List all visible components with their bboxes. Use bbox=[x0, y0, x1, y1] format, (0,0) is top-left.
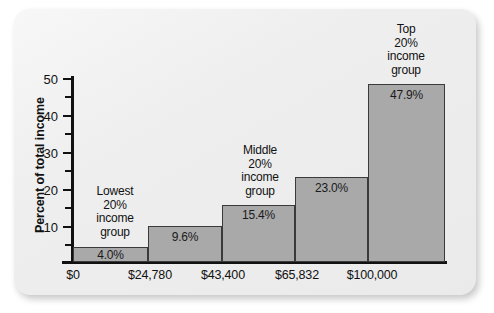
bar-value-lowest-20: 4.0% bbox=[73, 248, 148, 262]
annotation-top-line-2: 20% bbox=[374, 37, 438, 51]
x-tick-label-100000: $100,000 bbox=[339, 268, 405, 282]
annotation-middle-line-3: income bbox=[228, 171, 292, 185]
annotation-middle-line-1: Middle bbox=[228, 144, 292, 158]
bar-value-fourth-20: 23.0% bbox=[295, 181, 368, 195]
bar-value-second-20: 9.6% bbox=[148, 230, 222, 244]
y-tick-label-20: 20 bbox=[28, 183, 58, 198]
x-tick-label-24780: $24,780 bbox=[120, 268, 180, 282]
annotation-middle-line-4: group bbox=[228, 185, 292, 199]
chart-page: Percent of total income 50 40 30 20 10 4… bbox=[0, 0, 494, 313]
y-tick-major-10 bbox=[63, 226, 71, 228]
y-tick-label-50: 50 bbox=[28, 72, 58, 87]
bar-value-middle-20: 15.4% bbox=[222, 208, 295, 222]
annotation-lowest-line-4: group bbox=[83, 226, 147, 240]
annotation-lowest-line-2: 20% bbox=[83, 199, 147, 213]
y-tick-major-20 bbox=[63, 189, 71, 191]
annotation-lowest-line-1: Lowest bbox=[83, 185, 147, 199]
x-tick-label-43400: $43,400 bbox=[193, 268, 253, 282]
y-axis-line bbox=[71, 76, 74, 263]
y-tick-major-50 bbox=[63, 78, 71, 80]
annotation-top-line-4: group bbox=[374, 64, 438, 78]
bar-top-20[interactable] bbox=[368, 84, 445, 262]
y-tick-label-40: 40 bbox=[28, 109, 58, 124]
y-tick-label-10: 10 bbox=[28, 220, 58, 235]
bar-chart: Percent of total income 50 40 30 20 10 4… bbox=[0, 0, 494, 313]
annotation-middle-line-2: 20% bbox=[228, 158, 292, 172]
annotation-top-line-1: Top bbox=[374, 23, 438, 37]
y-tick-major-30 bbox=[63, 152, 71, 154]
x-tick-label-0: $0 bbox=[48, 268, 98, 282]
annotation-middle-20-income-group: Middle 20% income group bbox=[228, 144, 292, 198]
annotation-top-line-3: income bbox=[374, 50, 438, 64]
annotation-top-20-income-group: Top 20% income group bbox=[374, 23, 438, 77]
y-tick-major-40 bbox=[63, 115, 71, 117]
bar-value-top-20: 47.9% bbox=[368, 88, 445, 102]
y-tick-label-30: 30 bbox=[28, 146, 58, 161]
annotation-lowest-20-income-group: Lowest 20% income group bbox=[83, 185, 147, 239]
annotation-lowest-line-3: income bbox=[83, 212, 147, 226]
x-tick-label-65832: $65,832 bbox=[267, 268, 327, 282]
